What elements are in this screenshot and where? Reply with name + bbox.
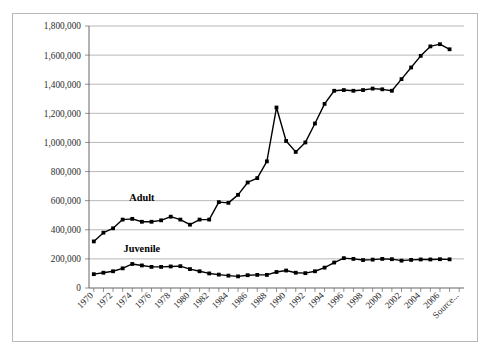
x-axis-tick-label: 1978 [152, 290, 172, 310]
x-axis-tick-label: 1992 [287, 290, 307, 310]
data-point-marker [371, 87, 375, 91]
chart-frame: 1,800,0001,600,0001,400,0001,200,0001,00… [12, 13, 478, 342]
data-point-marker [342, 256, 346, 260]
y-axis-tick-label: 0 [76, 283, 81, 293]
data-point-marker [169, 265, 173, 269]
data-point-marker [92, 240, 96, 244]
data-point-marker [428, 44, 432, 48]
data-point-marker [400, 259, 404, 263]
data-point-marker [92, 272, 96, 276]
data-point-marker [342, 88, 346, 92]
y-axis-tick-label: 600,000 [51, 196, 82, 206]
data-point-marker [207, 272, 211, 276]
data-point-marker [227, 274, 231, 278]
x-axis-tick-label: 1998 [344, 290, 364, 310]
data-point-marker [265, 273, 269, 277]
data-point-marker [284, 269, 288, 273]
data-point-marker [198, 218, 202, 222]
data-point-marker [275, 270, 279, 274]
data-point-marker [313, 269, 317, 273]
x-axis-tick-label: 1988 [248, 290, 268, 310]
data-point-marker [419, 258, 423, 262]
data-point-marker [159, 265, 163, 269]
data-point-marker [275, 106, 279, 110]
data-point-marker [428, 258, 432, 262]
x-axis-tick-label: 1994 [306, 290, 326, 310]
x-axis-tick-label: 1974 [114, 290, 134, 310]
data-point-marker [121, 218, 125, 222]
data-point-marker [380, 87, 384, 91]
y-axis-tick-label: 1,600,000 [44, 51, 82, 61]
data-point-marker [390, 89, 394, 93]
data-point-marker [159, 218, 163, 222]
data-point-marker [265, 159, 269, 163]
data-point-marker [352, 257, 356, 261]
data-point-marker [448, 257, 452, 261]
data-point-marker [178, 218, 182, 222]
data-point-marker [130, 262, 134, 266]
x-axis-tick-label: 2002 [383, 290, 403, 310]
x-axis-tick-label: 1996 [325, 290, 345, 310]
data-point-marker [332, 89, 336, 93]
data-point-marker [448, 47, 452, 51]
data-point-marker [361, 258, 365, 262]
x-axis-tick-label: 1976 [133, 290, 153, 310]
series-line-juvenile [94, 258, 450, 276]
data-point-marker [303, 271, 307, 275]
series-annotation-juvenile: Juvenile [124, 243, 161, 254]
data-point-marker [246, 181, 250, 185]
data-point-marker [419, 54, 423, 58]
data-point-marker [227, 201, 231, 205]
data-point-marker [438, 42, 442, 46]
data-point-marker [150, 265, 154, 269]
line-chart: 1,800,0001,600,0001,400,0001,200,0001,00… [13, 14, 477, 341]
y-axis-tick-label: 1,000,000 [44, 138, 82, 148]
y-axis-tick-label: 800,000 [51, 167, 82, 177]
y-axis-tick-label: 1,800,000 [44, 21, 82, 31]
data-point-marker [246, 273, 250, 277]
data-point-marker [371, 258, 375, 262]
data-point-marker [380, 257, 384, 261]
data-point-marker [188, 267, 192, 271]
data-point-marker [284, 139, 288, 143]
data-point-marker [323, 266, 327, 270]
y-axis-tick-label: 200,000 [51, 254, 82, 264]
data-point-marker [236, 193, 240, 197]
data-point-marker [236, 274, 240, 278]
data-point-marker [332, 261, 336, 265]
data-point-marker [390, 257, 394, 261]
data-point-marker [207, 218, 211, 222]
data-point-marker [130, 217, 134, 221]
data-point-marker [102, 231, 106, 235]
data-point-marker [188, 223, 192, 227]
x-axis-tick-label: 1990 [267, 290, 287, 310]
y-axis-tick-label: 1,400,000 [44, 80, 82, 90]
x-axis-tick-label: 1980 [171, 290, 191, 310]
data-point-marker [313, 122, 317, 126]
series-annotation-adult: Adult [129, 192, 155, 203]
data-point-marker [255, 176, 259, 180]
data-point-marker [217, 200, 221, 204]
data-point-marker [140, 220, 144, 224]
x-axis-tick-label: 2004 [402, 290, 422, 310]
y-axis-tick-label: 1,200,000 [44, 109, 82, 119]
data-point-marker [140, 264, 144, 268]
data-point-marker [169, 215, 173, 219]
data-point-marker [323, 102, 327, 106]
data-point-marker [111, 269, 115, 273]
x-axis-tick-label: 2000 [364, 290, 384, 310]
data-point-marker [121, 266, 125, 270]
data-point-marker [178, 264, 182, 268]
x-axis-tick-label: 1972 [94, 290, 114, 310]
y-axis-tick-label: 400,000 [51, 225, 82, 235]
data-point-marker [217, 273, 221, 277]
data-point-marker [150, 220, 154, 224]
data-point-marker [409, 66, 413, 70]
data-point-marker [111, 226, 115, 230]
data-point-marker [438, 257, 442, 261]
data-point-marker [294, 150, 298, 154]
data-point-marker [294, 271, 298, 275]
series-line-adult [94, 44, 450, 241]
data-point-marker [361, 88, 365, 92]
data-point-marker [400, 77, 404, 81]
